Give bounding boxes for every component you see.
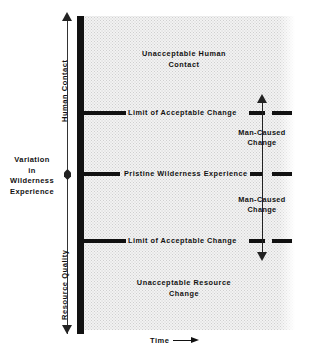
- zone-lower-line1: Unacceptable Resource: [104, 277, 264, 288]
- threshold-line-lower-left: [80, 239, 126, 243]
- axis-label-variation-line4: Experience: [3, 187, 61, 198]
- axis-label-resource-quality: Resource Quality: [60, 250, 69, 321]
- man-caused-change-down-arrow-stem: [262, 174, 263, 256]
- axis-label-human-contact: Human Contact: [60, 59, 69, 122]
- axis-label-variation: Variation in Wilderness Experience: [3, 155, 61, 197]
- annotation-mcc-top-line2: Change: [230, 138, 294, 148]
- threshold-line-upper-left: [80, 111, 126, 115]
- arrow-up-icon: [257, 94, 267, 103]
- threshold-line-pristine-mid: [250, 172, 262, 176]
- threshold-label-upper-limit: Limit of Acceptable Change: [128, 108, 237, 117]
- axis-label-time: Time: [150, 336, 169, 345]
- zone-lower-line2: Change: [104, 288, 264, 299]
- annotation-man-caused-change-bottom: Man-Caused Change: [230, 195, 294, 215]
- time-axis: Time: [150, 336, 199, 345]
- threshold-line-pristine-right: [272, 172, 292, 176]
- threshold-line-pristine-left: [80, 172, 120, 176]
- arrow-down-icon: [62, 325, 72, 334]
- annotation-mcc-top-line1: Man-Caused: [230, 128, 294, 138]
- arrow-down-icon: [257, 252, 267, 261]
- annotation-man-caused-change-top: Man-Caused Change: [230, 128, 294, 148]
- arrow-up-icon: [62, 12, 72, 21]
- lac-diagram-figure: Human Contact Resource Quality Variation…: [0, 0, 311, 358]
- threshold-line-lower-right: [272, 239, 292, 243]
- diamond-marker-icon: [64, 169, 71, 180]
- arrow-right-icon: [173, 337, 199, 344]
- zone-upper-line1: Unacceptable Human: [104, 48, 264, 59]
- zone-upper-line2: Contact: [104, 59, 264, 70]
- annotation-mcc-bottom-line1: Man-Caused: [230, 195, 294, 205]
- axis-label-variation-line2: in: [3, 166, 61, 177]
- zone-label-unacceptable-human-contact: Unacceptable Human Contact: [104, 48, 264, 70]
- axis-label-variation-line1: Variation: [3, 155, 61, 166]
- zone-label-unacceptable-resource-change: Unacceptable Resource Change: [104, 277, 264, 299]
- threshold-label-pristine: Pristine Wilderness Experience: [124, 169, 248, 178]
- threshold-line-upper-right: [272, 111, 292, 115]
- threshold-label-lower-limit: Limit of Acceptable Change: [128, 236, 237, 245]
- axis-label-variation-line3: Wilderness: [3, 176, 61, 187]
- annotation-mcc-bottom-line2: Change: [230, 205, 294, 215]
